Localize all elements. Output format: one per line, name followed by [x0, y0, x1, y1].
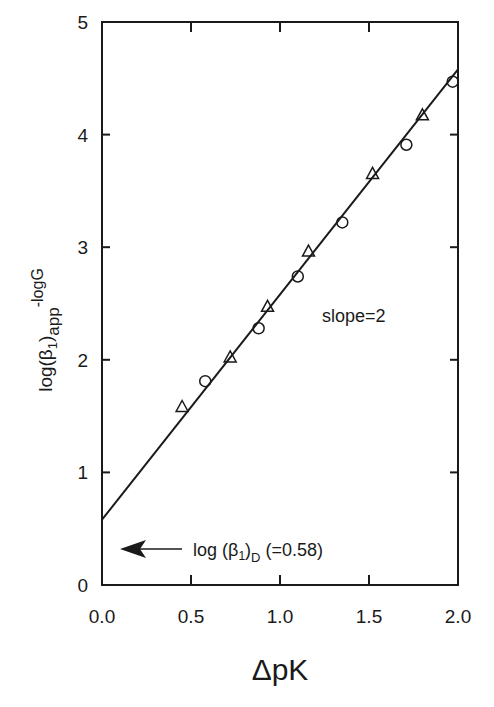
x-tick-label: 1.5 [356, 606, 382, 627]
circle-marker-icon [253, 323, 264, 334]
y-tick-label: 0 [77, 575, 88, 596]
fit-line-path [102, 69, 458, 519]
y-tick-label: 5 [77, 12, 88, 33]
triangle-marker-icon [176, 400, 188, 411]
circle-marker-icon [200, 376, 211, 387]
y-tick-label: 2 [77, 350, 88, 371]
y-tick-label: 4 [77, 125, 88, 146]
y-tick-label: 1 [77, 462, 88, 483]
x-axis-title: ΔpK [252, 653, 309, 686]
data-markers [176, 76, 458, 411]
plot-frame [102, 22, 458, 585]
intercept-annotation: log (β1)D (=0.58) [120, 540, 323, 565]
tick-labels: 0.00.51.01.52.0012345 [77, 12, 471, 627]
axis-ticks [102, 22, 458, 585]
circle-marker-icon [337, 217, 348, 228]
slope-annotation: slope=2 [322, 306, 386, 326]
y-tick-label: 3 [77, 237, 88, 258]
circle-marker-icon [401, 139, 412, 150]
fit-line [102, 69, 458, 519]
x-tick-label: 0.0 [89, 606, 115, 627]
x-tick-label: 0.5 [178, 606, 204, 627]
svg-text:log(β1)app-logG: log(β1)app-logG [29, 268, 63, 392]
x-tick-label: 2.0 [445, 606, 471, 627]
intercept-label: log (β1)D (=0.58) [193, 540, 323, 565]
x-tick-label: 1.0 [267, 606, 293, 627]
y-axis-title: log(β1)app-logG [29, 268, 63, 392]
chart: 0.00.51.01.52.0012345 slope=2 log (β1)D … [0, 0, 494, 707]
plot-border [102, 22, 458, 585]
